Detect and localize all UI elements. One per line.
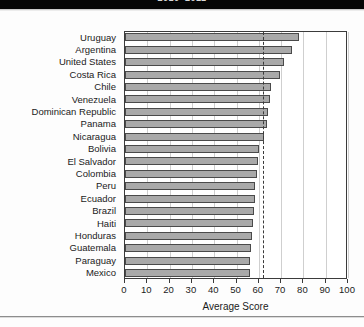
plot-area — [124, 31, 347, 279]
bar — [125, 244, 251, 252]
category-label: Bolivia — [88, 143, 116, 155]
category-label: Costa Rica — [70, 69, 116, 81]
category-axis-labels: UruguayArgentinaUnited StatesCosta RicaC… — [0, 31, 120, 279]
top-black-band: 2010–2011 — [0, 0, 364, 9]
chart-figure: UruguayArgentinaUnited StatesCosta RicaC… — [0, 11, 364, 316]
category-label: Colombia — [76, 168, 116, 180]
bar-row — [125, 206, 346, 218]
bar-row — [125, 255, 346, 267]
category-label: Haiti — [97, 218, 116, 230]
bar-series — [125, 32, 346, 278]
bar-row — [125, 32, 346, 44]
bar — [125, 71, 280, 79]
x-tick — [124, 279, 125, 283]
bar — [125, 157, 258, 165]
category-label: Peru — [96, 180, 116, 192]
category-label: Brazil — [92, 205, 116, 217]
category-label: Chile — [94, 81, 116, 93]
bar-row — [125, 131, 346, 143]
reference-line — [263, 32, 264, 278]
category-label: Paraguay — [75, 255, 116, 267]
bar — [125, 83, 271, 91]
category-label: United States — [59, 56, 116, 68]
x-tick — [191, 279, 192, 283]
x-tick — [236, 279, 237, 283]
x-tick — [325, 279, 326, 283]
category-label: Panama — [81, 118, 116, 130]
bar-row — [125, 57, 346, 69]
bar-row — [125, 94, 346, 106]
bar — [125, 33, 299, 41]
bar — [125, 108, 268, 116]
bar — [125, 145, 259, 153]
bar — [125, 232, 252, 240]
x-tick — [280, 279, 281, 283]
category-label: Ecuador — [81, 193, 116, 205]
category-label: El Salvador — [67, 156, 116, 168]
x-tick — [258, 279, 259, 283]
category-label: Argentina — [75, 44, 116, 56]
x-tick — [169, 279, 170, 283]
bar — [125, 46, 292, 54]
bar-row — [125, 106, 346, 118]
bar — [125, 269, 250, 277]
category-label: Mexico — [86, 267, 116, 279]
category-label: Honduras — [75, 230, 116, 242]
bar-row — [125, 156, 346, 168]
bar-row — [125, 168, 346, 180]
bar-row — [125, 44, 346, 56]
bar — [125, 58, 284, 66]
bar-row — [125, 181, 346, 193]
x-tick — [302, 279, 303, 283]
x-tick-label: 100 — [332, 284, 362, 295]
x-tick — [213, 279, 214, 283]
bar — [125, 195, 255, 203]
bar — [125, 120, 267, 128]
clipped-caption: 2010–2011 — [0, 0, 364, 3]
x-axis-title: Average Score — [124, 301, 347, 312]
x-tick — [146, 279, 147, 283]
gridline — [348, 32, 349, 278]
bar — [125, 170, 257, 178]
category-label: Dominican Republic — [32, 106, 116, 118]
bar — [125, 133, 264, 141]
category-label: Venezuela — [72, 94, 116, 106]
bottom-divider-shadow — [0, 317, 364, 318]
bar — [125, 95, 270, 103]
x-axis-tick-labels: 0102030405060708090100 — [0, 284, 364, 298]
bar — [125, 182, 255, 190]
bar-row — [125, 69, 346, 81]
bar-row — [125, 243, 346, 255]
category-label: Uruguay — [80, 32, 116, 44]
bar — [125, 207, 254, 215]
category-label: Guatemala — [70, 242, 116, 254]
bar-row — [125, 82, 346, 94]
x-tick — [347, 279, 348, 283]
bar-row — [125, 193, 346, 205]
bar-row — [125, 230, 346, 242]
bar — [125, 257, 250, 265]
chart-screenshot: 2010–2011 UruguayArgentinaUnited StatesC… — [0, 0, 364, 327]
bar-row — [125, 144, 346, 156]
bar-row — [125, 218, 346, 230]
bar-row — [125, 119, 346, 131]
bar — [125, 219, 253, 227]
category-label: Nicaragua — [73, 131, 116, 143]
